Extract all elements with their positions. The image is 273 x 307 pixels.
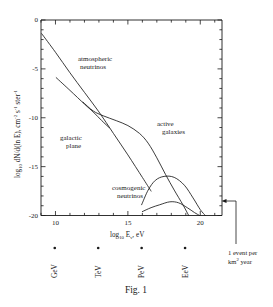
figure-caption: Fig. 1 (125, 285, 147, 295)
y-tick-label: -15 (29, 163, 39, 171)
x-axis-title-tail: , eV (132, 231, 145, 239)
x-tick-label: 20 (197, 219, 205, 227)
energy-marker-dot (184, 247, 187, 250)
energy-marker-dot (140, 247, 143, 250)
label-active-galaxies-line2: galaxies (162, 128, 185, 136)
label-atmospheric-neutrinos-line2: neutrinos (80, 63, 106, 71)
y-tick-label: -5 (32, 65, 38, 73)
energy-marker-label-tev: TeV (94, 265, 103, 278)
y-axis-title-sup3: -1 (13, 89, 18, 94)
energy-marker-label-pev: PeV (137, 265, 146, 278)
x-tick-label: 15 (124, 219, 132, 227)
label-cosmogenic-neutrinos-line1: cosmogenic (112, 184, 145, 192)
x-tick-label: 10 (52, 219, 60, 227)
curve-cosmogenic-neutrinos-upper (142, 176, 206, 215)
y-axis-title-mid: dN/d(ln E), cm (14, 118, 22, 164)
label-atmospheric-neutrinos-line1: atmospheric (78, 55, 112, 63)
y-axis-title-main: log (14, 168, 22, 178)
energy-marker-dot (97, 247, 100, 250)
y-tick-label: -20 (29, 212, 39, 220)
x-axis-title: log10 Eν, eV (110, 231, 145, 240)
label-galactic-plane-line1: galactic (60, 134, 82, 142)
label-cosmogenic-neutrinos-line2: neutrinos (117, 192, 143, 200)
energy-marker-label-gev: GeV (50, 263, 59, 278)
figure-container: 1015200-5-10-15-20 atmospheric neutrinos… (0, 0, 273, 307)
x-axis-title-main: log (110, 231, 120, 239)
annotation-text-line1: 1 event per (228, 249, 258, 256)
y-tick-label: 0 (35, 16, 39, 24)
energy-marker-dot (53, 247, 56, 250)
label-galactic-plane-line2: plane (66, 142, 81, 150)
y-tick-label: -10 (29, 114, 39, 122)
event-rate-annotation: 1 event per km2 year (222, 199, 259, 265)
energy-marker-label-eev: EeV (181, 264, 190, 278)
curve-galactic-plane (56, 78, 109, 128)
label-active-galaxies-line1: active (157, 120, 174, 128)
svg-text:log10 dN/d(ln E), cm-2 s-1 ste: log10 dN/d(ln E), cm-2 s-1 ster-1 (13, 89, 22, 178)
neutrino-flux-chart: 1015200-5-10-15-20 atmospheric neutrinos… (0, 0, 273, 307)
annotation-year: year (239, 258, 253, 265)
curve-labels: atmospheric neutrinos galactic plane act… (60, 55, 185, 200)
svg-text:log10 Eν, eV: log10 Eν, eV (110, 231, 145, 240)
y-axis-title-mid3: ster (14, 94, 22, 107)
energy-scale-markers: GeVTeVPeVEeV (50, 247, 189, 278)
annotation-text-line2: km2 year (228, 257, 253, 265)
y-axis-title: log10 dN/d(ln E), cm-2 s-1 ster-1 (13, 89, 22, 178)
